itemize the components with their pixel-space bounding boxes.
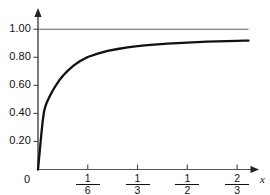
- series-group: [38, 29, 249, 169]
- fraction-numerator: 1: [126, 173, 150, 184]
- fraction-denominator: 3: [225, 185, 249, 194]
- fraction-numerator: 1: [175, 173, 199, 184]
- y-axis-ticks: [34, 29, 39, 141]
- x-axis-arrow-icon: [251, 166, 260, 173]
- fraction-denominator: 2: [175, 185, 199, 194]
- x-tick-fraction-label: 23: [225, 173, 249, 195]
- fraction-denominator: 3: [126, 185, 150, 194]
- fraction-numerator: 2: [225, 173, 249, 184]
- fraction-numerator: 1: [76, 173, 100, 184]
- y-tick-label: 0.60: [9, 78, 31, 90]
- chart-figure: 0.200.400.600.801.00 16131223 0 x: [0, 0, 270, 194]
- y-tick-label: 0.80: [9, 50, 31, 62]
- fraction-denominator: 6: [76, 185, 100, 194]
- x-axis-ticks: [88, 165, 237, 170]
- y-axis-arrow-icon: [34, 8, 41, 17]
- plot-canvas: [0, 0, 270, 194]
- y-tick-label: 0.40: [9, 106, 31, 118]
- x-tick-fraction-label: 16: [76, 173, 100, 195]
- x-tick-fraction-label: 13: [126, 173, 150, 195]
- y-tick-label: 0.20: [9, 134, 31, 146]
- axes-group: [34, 8, 260, 173]
- origin-zero-label: 0: [24, 173, 30, 185]
- x-axis-label: x: [260, 173, 265, 185]
- x-tick-fraction-label: 12: [175, 173, 199, 195]
- data-curve: [38, 41, 249, 170]
- y-tick-label: 1.00: [9, 22, 31, 34]
